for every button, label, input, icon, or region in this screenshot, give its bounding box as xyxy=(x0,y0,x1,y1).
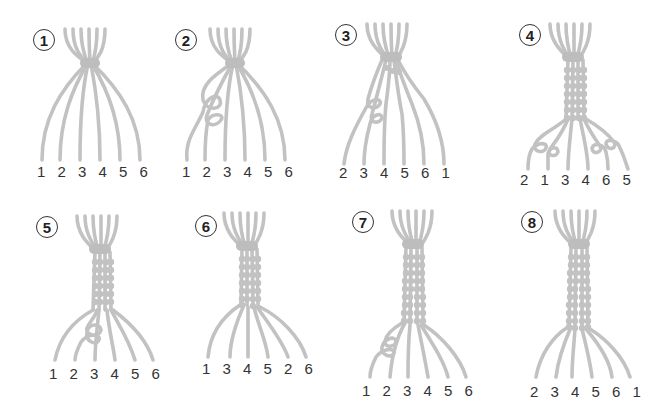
strand-labels: 123456 xyxy=(356,382,479,399)
braid-illustration xyxy=(192,205,332,385)
braid-illustration xyxy=(510,14,650,190)
strand-labels: 123456 xyxy=(31,163,154,180)
strand-labels: 213465 xyxy=(514,171,637,188)
step-panel-1: 1 123456 xyxy=(30,20,170,190)
step-panel-8: 8 234561 xyxy=(512,205,652,405)
step-panel-6: 6 134526 xyxy=(192,205,332,385)
strand-labels: 123456 xyxy=(176,163,299,180)
step-panel-3: 3 234561 xyxy=(332,14,472,190)
step-panel-4: 4 213465 xyxy=(510,14,650,190)
braid-illustration xyxy=(512,205,652,405)
step-panel-7: 7 123456 xyxy=(350,205,490,405)
braid-illustration xyxy=(35,210,175,390)
strand-labels: 134526 xyxy=(196,360,319,377)
strand-labels: 234561 xyxy=(333,164,456,181)
step-panel-5: 5 123456 xyxy=(35,210,175,390)
braid-illustration xyxy=(350,205,490,405)
strand-labels: 234561 xyxy=(524,383,647,400)
step-panel-2: 2 123456 xyxy=(175,20,315,190)
strand-labels: 123456 xyxy=(43,365,166,382)
